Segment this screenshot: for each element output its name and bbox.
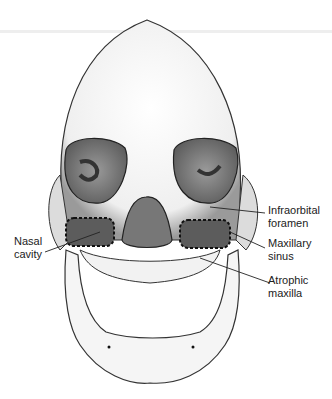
label-maxillary-sinus: Maxillary sinus [268, 237, 311, 263]
skull-illustration: Infraorbital foramen Maxillary sinus Nas… [0, 0, 332, 399]
label-line: Maxillary [268, 237, 311, 250]
label-line: Infraorbital [268, 204, 320, 217]
label-line: maxilla [268, 287, 308, 300]
label-atrophic-maxilla: Atrophic maxilla [268, 274, 308, 300]
skull-drawing [0, 0, 332, 399]
right-maxillary-sinus [180, 220, 230, 248]
label-infraorbital-foramen: Infraorbital foramen [268, 204, 320, 230]
label-line: Atrophic [268, 274, 308, 287]
label-line: foramen [268, 217, 320, 230]
label-line: cavity [14, 248, 42, 261]
label-line: sinus [268, 250, 311, 263]
label-nasal-cavity: Nasal cavity [14, 235, 42, 261]
label-line: Nasal [14, 235, 42, 248]
